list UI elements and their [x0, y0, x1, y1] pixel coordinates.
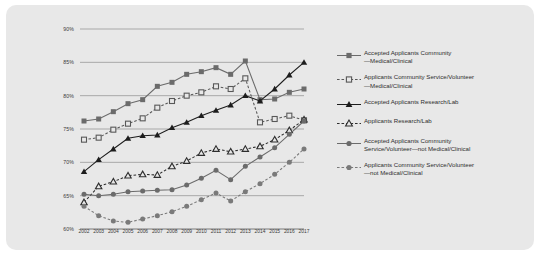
- y-axis-tick: 80%: [63, 93, 74, 99]
- data-point: [213, 146, 219, 152]
- data-point: [155, 188, 160, 193]
- data-point: [96, 117, 101, 122]
- data-point: [287, 113, 292, 118]
- legend-label-line1: Applicants Community Service/Volunteer: [364, 161, 474, 169]
- plot-area: [78, 23, 310, 235]
- data-point: [140, 217, 145, 222]
- series-line: [84, 61, 304, 121]
- x-axis-tick: 2009: [181, 229, 192, 234]
- x-axis-tick: 2012: [225, 229, 236, 234]
- data-point: [126, 101, 131, 106]
- legend-label-line1: Applicants Research/Lab: [364, 117, 432, 125]
- data-point: [302, 87, 307, 92]
- data-point: [301, 59, 307, 65]
- data-point: [199, 176, 204, 181]
- data-point: [170, 187, 175, 192]
- data-point: [214, 65, 219, 70]
- data-point: [140, 189, 145, 194]
- data-point: [82, 204, 87, 209]
- data-point: [258, 181, 263, 186]
- legend-label-line2: Service/Volunteer—not Medical/Clinical: [364, 145, 470, 153]
- data-point: [214, 191, 219, 196]
- data-point: [140, 116, 145, 121]
- data-point: [228, 177, 233, 182]
- legend-item[interactable]: Accepted Applicants CommunityService/Vol…: [334, 137, 524, 154]
- x-axis-tick: 2013: [240, 229, 251, 234]
- data-point: [169, 163, 175, 169]
- data-point: [228, 72, 233, 77]
- legend-item[interactable]: Accepted Applicants Research/Lab: [334, 98, 524, 110]
- data-point: [170, 80, 175, 85]
- legend-label-line2: —Medical/Clinical: [364, 82, 474, 90]
- data-point: [302, 119, 307, 124]
- legend-item[interactable]: Applicants Research/Lab: [334, 117, 524, 129]
- data-point: [111, 219, 116, 224]
- x-axis-tick: 2007: [152, 229, 163, 234]
- data-point: [155, 213, 160, 218]
- data-point: [183, 158, 189, 164]
- data-point: [96, 213, 101, 218]
- legend-item[interactable]: Applicants Community Service/Volunteer—M…: [334, 73, 524, 90]
- x-axis-tick: 2003: [93, 229, 104, 234]
- series-line: [84, 62, 304, 171]
- data-point: [96, 135, 101, 140]
- data-point: [170, 99, 175, 104]
- legend-item[interactable]: Applicants Community Service/Volunteer—n…: [334, 161, 524, 178]
- data-point: [228, 199, 233, 204]
- data-point: [82, 137, 87, 142]
- y-axis-tick: 70%: [63, 159, 74, 165]
- chart-card: 90%85%80%75%70%65%60% 200220032004200520…: [6, 5, 534, 250]
- y-axis-tick: 65%: [63, 193, 74, 199]
- data-point: [126, 220, 131, 225]
- data-point: [302, 147, 307, 152]
- series-line: [84, 78, 304, 139]
- data-point: [243, 189, 248, 194]
- legend-label: Applicants Community Service/Volunteer—M…: [364, 73, 474, 90]
- x-axis-tick: 2011: [211, 229, 222, 234]
- data-point: [110, 146, 116, 152]
- legend-label: Applicants Community Service/Volunteer—n…: [364, 161, 474, 178]
- data-point: [287, 160, 292, 165]
- x-axis-tick: 2006: [137, 229, 148, 234]
- y-axis-tick: 60%: [63, 226, 74, 232]
- legend-item[interactable]: Accepted Applicants Community—Medical/Cl…: [334, 49, 524, 66]
- data-point: [227, 102, 233, 108]
- data-point: [96, 193, 101, 198]
- data-point: [199, 197, 204, 202]
- x-axis-tick: 2014: [255, 229, 266, 234]
- data-point: [184, 204, 189, 209]
- data-point: [287, 132, 292, 137]
- legend-label: Accepted Applicants Research/Lab: [364, 98, 459, 106]
- x-axis-tick: 2017: [299, 229, 310, 234]
- data-point: [272, 117, 277, 122]
- data-point: [140, 97, 145, 102]
- legend-label: Accepted Applicants Community—Medical/Cl…: [364, 49, 451, 66]
- legend-marker-icon: [334, 138, 364, 149]
- legend-marker-icon: [334, 118, 364, 129]
- x-axis-tick-labels: 2002200320042005200620072008200920102011…: [78, 229, 310, 241]
- data-point: [183, 119, 189, 125]
- data-point: [95, 156, 101, 162]
- data-point: [110, 178, 116, 184]
- data-point: [272, 172, 277, 177]
- data-point: [82, 192, 87, 197]
- data-point: [154, 172, 160, 178]
- data-point: [228, 87, 233, 92]
- data-point: [184, 72, 189, 77]
- series-line: [84, 149, 304, 222]
- legend-label: Applicants Research/Lab: [364, 117, 432, 125]
- data-point: [155, 105, 160, 110]
- x-axis-tick: 2016: [284, 229, 295, 234]
- data-point: [272, 145, 277, 150]
- x-axis-tick: 2002: [79, 229, 90, 234]
- legend-label: Accepted Applicants CommunityService/Vol…: [364, 137, 470, 154]
- data-point: [243, 164, 248, 169]
- data-point: [271, 136, 277, 142]
- data-point: [111, 192, 116, 197]
- series-line: [84, 120, 304, 203]
- chart-legend: Accepted Applicants Community—Medical/Cl…: [334, 49, 524, 185]
- data-point: [126, 121, 131, 126]
- legend-marker-icon: [334, 50, 364, 61]
- legend-marker-icon: [334, 74, 364, 85]
- x-axis-tick: 2005: [123, 229, 134, 234]
